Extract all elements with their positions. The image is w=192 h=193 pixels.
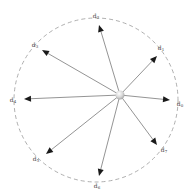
direction-label-d3: d3 bbox=[32, 42, 38, 49]
arrow-shaft-d0 bbox=[120, 95, 163, 99]
arrow-shaft-d1 bbox=[120, 61, 152, 95]
direction-label-d0: d0 bbox=[177, 101, 183, 108]
arrowhead-icon bbox=[163, 96, 170, 102]
arrow-shaft-d4 bbox=[31, 95, 120, 99]
arrowhead-icon bbox=[24, 96, 31, 102]
arrow-shaft-d5 bbox=[51, 95, 120, 150]
direction-label-d4: d4 bbox=[10, 97, 16, 104]
direction-label-d7: d7 bbox=[161, 147, 167, 154]
direction-label-d1: d1 bbox=[158, 45, 164, 52]
arrowhead-icon bbox=[98, 25, 104, 33]
arrowhead-icon bbox=[98, 168, 104, 176]
arrowhead-icon bbox=[42, 50, 50, 56]
direction-diagram bbox=[0, 0, 192, 193]
direction-label-d5: d5 bbox=[33, 156, 39, 163]
arrowhead-icon bbox=[150, 138, 157, 145]
center-node bbox=[116, 91, 125, 100]
arrow-shaft-d7 bbox=[120, 95, 153, 139]
direction-label-d6: d6 bbox=[94, 183, 100, 190]
arrowhead-icon bbox=[46, 147, 53, 154]
direction-arrows bbox=[24, 25, 170, 176]
arrow-shaft-d6 bbox=[101, 95, 120, 169]
direction-label-d2: d2 bbox=[93, 13, 99, 20]
